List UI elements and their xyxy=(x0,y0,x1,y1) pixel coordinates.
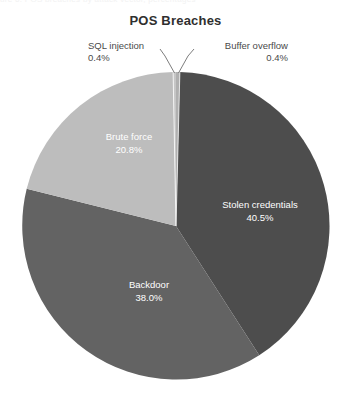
slice-label-brute-force-percent: 20.8% xyxy=(85,144,173,157)
slice-label-backdoor-percent: 38.0% xyxy=(106,292,192,305)
leader-line-sql-injection xyxy=(160,49,175,73)
slice-label-brute-force-name: Brute force xyxy=(85,131,173,144)
slice-label-stolen-credentials: Stolen credentials 40.5% xyxy=(206,199,314,224)
leader-line-buffer-overflow xyxy=(179,49,195,73)
slice-label-stolen-credentials-percent: 40.5% xyxy=(206,212,314,225)
slice-label-backdoor: Backdoor 38.0% xyxy=(106,279,192,304)
callout-buffer-overflow-percent: 0.4% xyxy=(196,52,288,64)
slice-label-stolen-credentials-name: Stolen credentials xyxy=(206,199,314,212)
callout-sql-injection-name: SQL injection xyxy=(88,40,144,52)
slice-label-brute-force: Brute force 20.8% xyxy=(85,131,173,156)
callout-label-buffer-overflow: Buffer overflow 0.4% xyxy=(196,40,288,64)
callout-label-sql-injection: SQL injection 0.4% xyxy=(88,40,144,64)
slice-label-backdoor-name: Backdoor xyxy=(106,279,192,292)
callout-sql-injection-percent: 0.4% xyxy=(88,52,144,64)
callout-buffer-overflow-name: Buffer overflow xyxy=(196,40,288,52)
